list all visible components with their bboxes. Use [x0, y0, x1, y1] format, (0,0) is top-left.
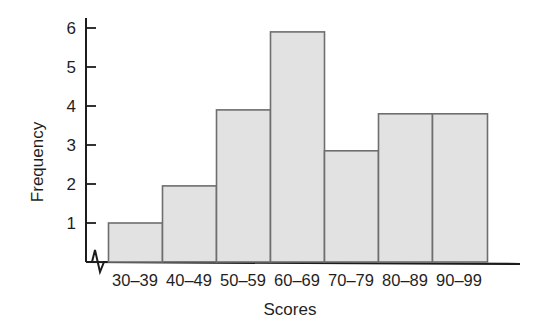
bar-80-89: [379, 114, 433, 262]
y-tick-label-2: 2: [67, 175, 76, 194]
bar-70-79: [325, 151, 379, 262]
x-tick-label-40-49: 40–49: [166, 271, 212, 289]
histogram-chart: Frequency 6 5 4 3 2 1: [0, 0, 541, 334]
x-axis-tick-labels: 30–39 40–49 50–59 60–69 70–79 80–89 90–9…: [112, 271, 482, 289]
histogram-figure: Frequency 6 5 4 3 2 1: [0, 0, 541, 334]
y-tick-label-6: 6: [67, 19, 76, 38]
y-tick-label-3: 3: [67, 136, 76, 155]
x-tick-label-70-79: 70–79: [328, 271, 374, 289]
bar-40-49: [163, 186, 217, 262]
x-tick-label-30-39: 30–39: [112, 271, 158, 289]
x-tick-label-60-69: 60–69: [274, 271, 320, 289]
bar-50-59: [217, 110, 271, 262]
x-tick-label-50-59: 50–59: [220, 271, 266, 289]
y-axis-title: Frequency: [28, 121, 47, 202]
x-tick-label-90-99: 90–99: [436, 271, 482, 289]
x-tick-label-80-89: 80–89: [382, 271, 428, 289]
histogram-bars: [109, 32, 488, 262]
y-axis-tick-labels: 6 5 4 3 2 1: [67, 19, 76, 233]
bar-60-69: [271, 32, 325, 262]
x-axis-title: Scores: [264, 300, 317, 319]
y-tick-label-1: 1: [67, 214, 76, 233]
y-tick-label-4: 4: [67, 97, 76, 116]
y-axis-ticks: [86, 28, 96, 223]
bar-30-39: [109, 223, 163, 262]
y-tick-label-5: 5: [67, 58, 76, 77]
bar-90-99: [433, 114, 488, 262]
